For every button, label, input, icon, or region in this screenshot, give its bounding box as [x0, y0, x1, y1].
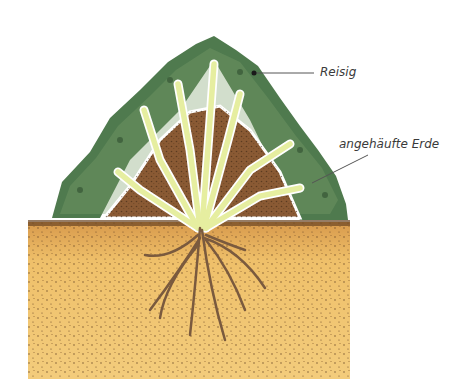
- illustration: [0, 0, 449, 392]
- reisig-label: Reisig: [320, 65, 356, 79]
- erde-label: angehäufte Erde: [339, 137, 439, 151]
